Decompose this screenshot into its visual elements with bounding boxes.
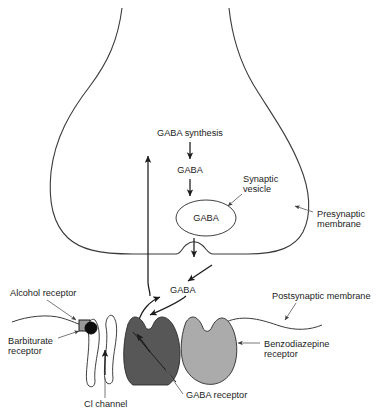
postsynaptic-membrane-leader	[285, 303, 296, 320]
callout-barbiturate-receptor: Barbiturate receptor	[8, 331, 79, 356]
gaba-synthesis-chain: GABA synthesis GABA	[157, 128, 223, 196]
gaba-receptor	[124, 317, 180, 385]
synaptic-vesicle-callout: Synaptic vesicle	[228, 174, 279, 206]
cl-channel-strip-right	[104, 315, 116, 383]
postsynaptic-membrane-label: Postsynaptic membrane	[272, 291, 371, 301]
synaptic-vesicle-leader	[228, 194, 242, 206]
gaba-synapse-diagram: GABA synthesis GABA GABA Synaptic vesicl…	[0, 0, 380, 415]
benzodiazepine-receptor-label-line2: receptor	[264, 349, 298, 359]
diagram-canvas: GABA synthesis GABA GABA Synaptic vesicl…	[0, 0, 380, 415]
synaptic-vesicle-label-line1: Synaptic	[243, 174, 279, 184]
presynaptic-membrane-label-line1: Presynaptic	[317, 209, 365, 219]
gaba-receptor-shape	[124, 317, 180, 385]
cleft-gaba-group: GABA	[139, 285, 196, 320]
barbiturate-receptor	[85, 322, 97, 334]
alcohol-receptor-label: Alcohol receptor	[10, 288, 76, 298]
postsynaptic-membrane-right	[226, 318, 322, 329]
gaba-reuptake-arrow	[148, 156, 150, 296]
alcohol-receptor-leader	[47, 300, 76, 320]
synaptic-vesicle: GABA	[176, 200, 236, 236]
vesicle-gaba-label: GABA	[193, 213, 219, 223]
gaba-synthesis-label: GABA synthesis	[157, 128, 223, 138]
barbiturate-receptor-label-line2: receptor	[8, 346, 42, 356]
cleft-gaba-label: GABA	[170, 285, 196, 295]
barbiturate-receptor-leader	[58, 331, 79, 338]
postsynaptic-membrane-left	[12, 316, 84, 326]
callout-postsynaptic-membrane: Postsynaptic membrane	[272, 291, 371, 320]
benzodiazepine-receptor-label-line1: Benzodiazepine	[264, 339, 329, 349]
presynaptic-membrane-label-line2: membrane	[317, 219, 361, 229]
barbiturate-receptor-circle	[85, 322, 97, 334]
cl-channel-label: Cl channel	[84, 399, 127, 409]
callout-benzodiazepine-receptor: Benzodiazepine receptor	[238, 339, 329, 359]
cleft-diffusion-arrow	[188, 265, 212, 281]
gaba-release-curve-arrow	[139, 297, 160, 320]
callout-alcohol-receptor: Alcohol receptor	[10, 288, 76, 320]
benzodiazepine-receptor	[181, 317, 237, 384]
gaba-transmitter-label: GABA	[177, 165, 203, 175]
reuptake-arrow-path	[148, 156, 150, 296]
presynaptic-membrane-leader	[295, 206, 313, 212]
benzodiazepine-receptor-shape	[181, 317, 237, 384]
synaptic-vesicle-label-line2: vesicle	[243, 184, 271, 194]
release-arrows	[188, 238, 212, 281]
barbiturate-receptor-label-line1: Barbiturate	[8, 336, 53, 346]
gaba-receptor-label: GABA receptor	[186, 390, 247, 400]
